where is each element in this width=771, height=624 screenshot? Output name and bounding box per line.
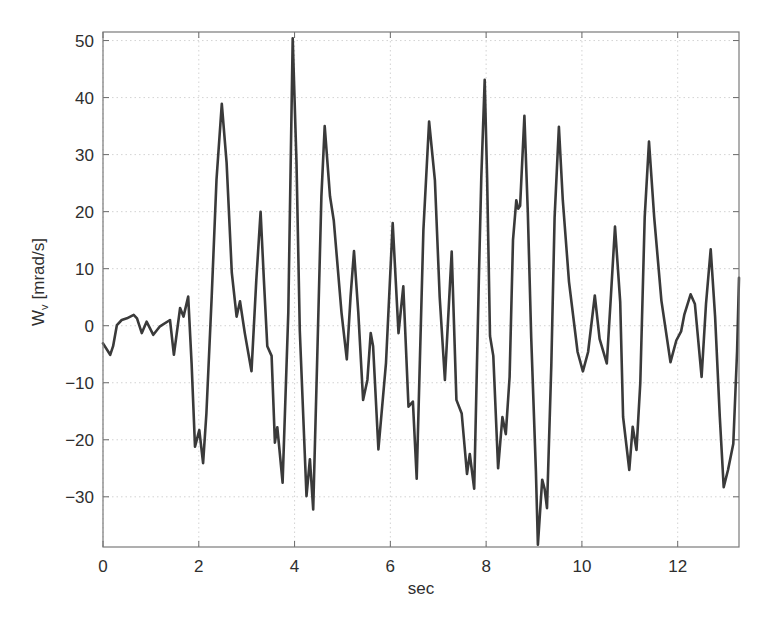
x-tick-label: 12 — [668, 557, 687, 576]
y-tick-label: 50 — [75, 32, 94, 51]
y-tick-label: −10 — [65, 374, 94, 393]
y-axis-label-units: [mrad/s] — [29, 238, 48, 299]
y-tick-label: 10 — [75, 260, 94, 279]
x-tick-label: 6 — [386, 557, 395, 576]
y-tick-label: −30 — [65, 488, 94, 507]
line-chart: 024681012 −30−20−1001020304050 sec Wv[mr… — [0, 0, 771, 624]
y-axis-label-symbol: W — [29, 310, 48, 326]
y-tick-label: 20 — [75, 203, 94, 222]
chart-background — [0, 0, 771, 624]
y-tick-label: 30 — [75, 146, 94, 165]
x-tick-label: 4 — [290, 557, 299, 576]
y-tick-label: −20 — [65, 431, 94, 450]
x-tick-label: 8 — [481, 557, 490, 576]
y-tick-label: 40 — [75, 89, 94, 108]
x-tick-label: 10 — [572, 557, 591, 576]
x-tick-label: 0 — [98, 557, 107, 576]
x-axis-label: sec — [408, 579, 435, 598]
y-axis-label: Wv[mrad/s] — [29, 238, 50, 326]
x-tick-label: 2 — [194, 557, 203, 576]
y-axis-label-subscript: v — [38, 304, 50, 310]
y-tick-label: 0 — [85, 317, 94, 336]
